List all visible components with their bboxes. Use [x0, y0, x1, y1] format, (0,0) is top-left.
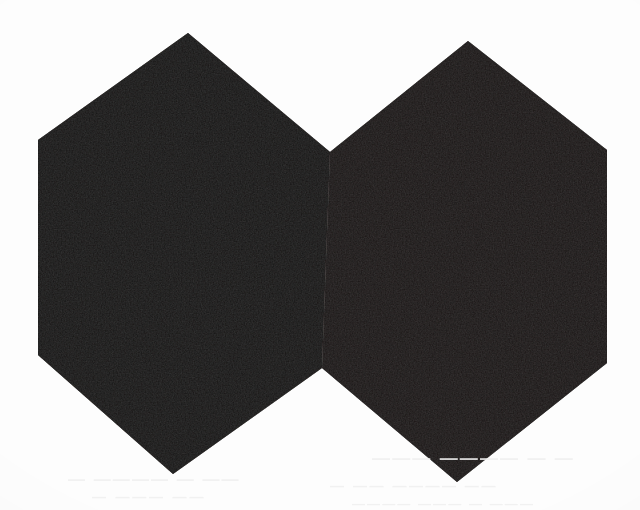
double-hexagon-figure [0, 0, 640, 510]
artwork-canvas: — ———— — —— — ——— —— ——— ———— — — — —— —… [0, 0, 640, 510]
right-hexagon-texture-overlay [322, 41, 607, 482]
left-hexagon-texture-overlay [38, 33, 330, 474]
